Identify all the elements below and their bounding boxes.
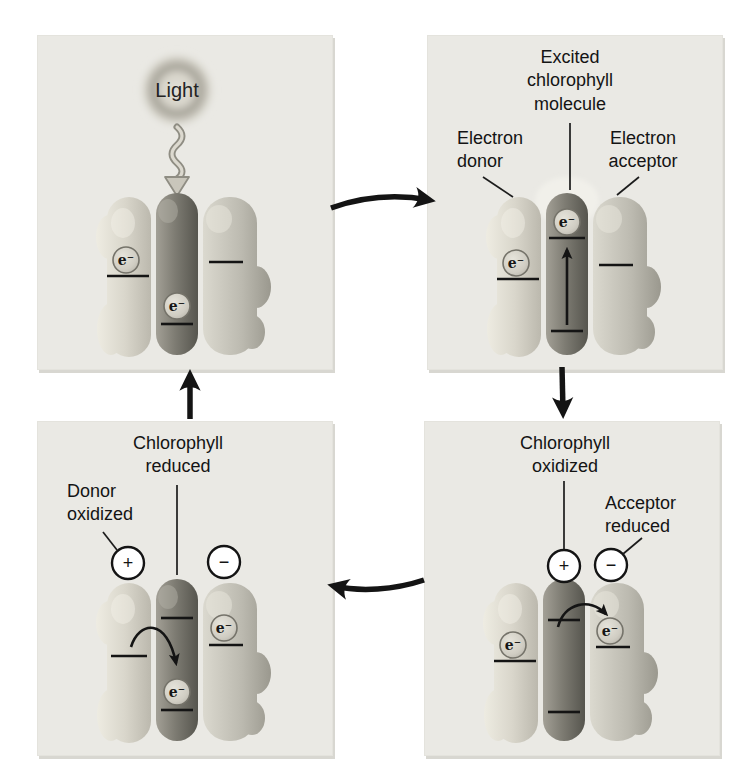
electron-donor-molecule [486,197,541,357]
electron-symbol: e⁻ [505,637,521,653]
panel-chlorophyll-oxidized: + − e⁻ e⁻ Chlorophyll oxidized Accepto [424,421,720,756]
negative-charge: − [208,546,240,578]
electron-donor-molecule [96,583,151,743]
electron: e⁻ [211,615,237,641]
arrow-br-to-bl [334,580,424,589]
electron-acceptor-molecule [593,197,661,355]
electron-donor-molecule [483,583,538,743]
electron: e⁻ [503,250,529,276]
electron-symbol: e⁻ [508,255,524,271]
electron-acceptor-label: Electron acceptor [608,127,677,174]
positive-charge: + [548,550,580,582]
electron: e⁻ [164,679,190,705]
panel-light-absorption: Light [37,35,333,370]
donor-label-pointer [483,177,513,197]
plus-symbol: + [123,553,134,573]
light-absorption-art: Light [37,35,333,370]
acceptor-reduced-label: Acceptor reduced [605,492,676,539]
electron: e⁻ [554,209,580,235]
electron-acceptor-molecule [203,197,271,355]
chlorophyll-molecule [543,579,585,741]
chlorophyll-oxidized-label: Chlorophyll oxidized [520,432,610,479]
light-wavy-arrow [165,127,189,196]
arrow-tl-to-tr [331,197,429,208]
chlorophyll-molecule [156,193,198,355]
acceptor-reduced-pointer [623,538,642,554]
electron-acceptor-molecule [203,583,271,741]
negative-charge: − [595,549,627,581]
light-burst: Light [136,49,218,131]
acceptor-label-pointer [617,177,639,195]
donor-oxidized-pointer [103,532,117,550]
diagram-page: Light [0,0,746,782]
positive-charge: + [112,547,144,579]
panel-chlorophyll-reduced: + − e⁻ e⁻ Chlorophyll reduced Donor ox [37,421,333,756]
light-label: Light [155,79,199,101]
chlorophyll-reduced-label: Chlorophyll reduced [133,432,223,479]
electron-symbol: e⁻ [169,684,185,700]
electron-symbol: e⁻ [216,620,232,636]
excited-chlorophyll-label: Excited chlorophyll molecule [527,46,613,116]
electron: e⁻ [113,247,139,273]
electron-symbol: e⁻ [602,623,618,639]
minus-symbol: − [606,555,617,575]
minus-symbol: − [219,552,230,572]
electron: e⁻ [500,632,526,658]
electron: e⁻ [597,618,623,644]
electron-symbol: e⁻ [559,214,575,230]
electron-symbol: e⁻ [118,252,134,268]
electron-symbol: e⁻ [169,298,185,314]
panel-excited-chlorophyll: e⁻ e⁻ Excited chlorophyll molecule Elect… [427,35,723,370]
electron: e⁻ [164,293,190,319]
arrow-tr-to-br [562,367,563,412]
donor-oxidized-label: Donor oxidized [67,480,133,527]
chlorophyll-molecule [156,579,198,741]
plus-symbol: + [559,556,570,576]
electron-acceptor-molecule [590,583,658,741]
electron-donor-label: Electron donor [457,127,523,174]
